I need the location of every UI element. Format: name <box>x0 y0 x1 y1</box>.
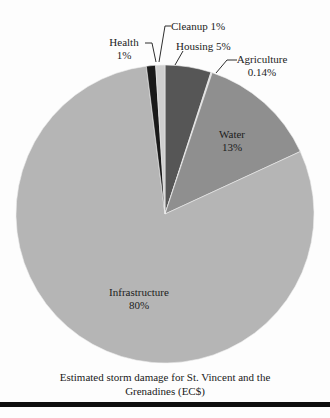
slice-label-infrastructure-name: Infrastructure <box>92 286 186 299</box>
slice-label-water-name: Water <box>207 128 257 141</box>
slice-label-health: Health 1% <box>99 36 149 62</box>
slice-label-agriculture-pct: 0.14% <box>231 66 293 79</box>
slice-label-infrastructure: Infrastructure 80% <box>92 286 186 312</box>
slice-label-housing: Housing 5% <box>176 40 231 53</box>
slice-label-water-pct: 13% <box>207 141 257 154</box>
slice-label-water: Water 13% <box>207 128 257 154</box>
pie-slices <box>16 65 314 363</box>
page-rule-bar <box>0 402 330 407</box>
slice-label-infrastructure-pct: 80% <box>92 299 186 312</box>
chart-caption-line2: Grenadines (EC$) <box>15 385 315 399</box>
slice-label-cleanup: Cleanup 1% <box>171 20 225 33</box>
figure-canvas: Cleanup 1% Health 1% Housing 5% Agricult… <box>0 0 330 418</box>
slice-label-agriculture-name: Agriculture <box>231 53 293 66</box>
leader-line-housing <box>175 51 183 65</box>
chart-caption: Estimated storm damage for St. Vincent a… <box>15 371 315 398</box>
slice-label-health-pct: 1% <box>99 49 149 62</box>
leader-line-cleanup <box>159 26 171 62</box>
chart-caption-line1: Estimated storm damage for St. Vincent a… <box>15 371 315 385</box>
slice-label-agriculture: Agriculture 0.14% <box>231 53 293 79</box>
slice-label-health-name: Health <box>99 36 149 49</box>
